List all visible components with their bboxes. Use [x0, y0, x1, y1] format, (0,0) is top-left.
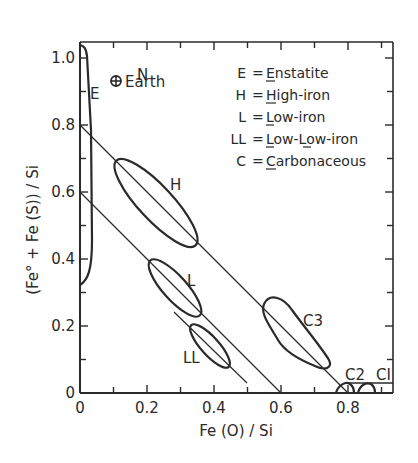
svg-text:Carbonaceous: Carbonaceous — [266, 153, 366, 169]
svg-text:L: L — [238, 109, 246, 125]
svg-text:Low-iron: Low-iron — [266, 109, 325, 125]
label-c1: CI — [376, 366, 391, 384]
svg-text:H: H — [235, 87, 246, 103]
svg-text:=: = — [252, 65, 264, 81]
x-axis-title: Fe (O) / Si — [199, 422, 273, 440]
svg-text:C: C — [236, 153, 246, 169]
label-n: N — [137, 66, 148, 84]
legend: E = Enstatite H = High-iron L = Low-iron… — [230, 65, 366, 169]
svg-text:=: = — [252, 87, 264, 103]
label-e: E — [90, 85, 99, 103]
legend-item-low-iron: L = Low-iron — [238, 109, 325, 125]
region-c1 — [358, 383, 375, 393]
label-ll: LL — [183, 349, 200, 367]
y-tick-label: 0.6 — [51, 183, 75, 201]
legend-item-enstatite: E = Enstatite — [237, 65, 328, 81]
label-l: L — [187, 272, 196, 290]
y-tick-label: 0.4 — [51, 250, 75, 268]
svg-text:High-iron: High-iron — [266, 87, 330, 103]
y-tick-label: 0.2 — [51, 317, 75, 335]
region-c3 — [263, 297, 330, 368]
y-axis-title: (Fe° + Fe (S)) / Si — [24, 165, 42, 295]
svg-text:=: = — [252, 131, 264, 147]
legend-item-low-low-iron: LL = Low-Low-iron — [230, 131, 358, 147]
region-enstatite — [80, 45, 92, 285]
label-c2: C2 — [345, 366, 365, 384]
y-tick-label: 0 — [65, 384, 75, 402]
svg-text:LL: LL — [230, 131, 246, 147]
y-tick-label: 1.0 — [51, 49, 75, 67]
svg-text:=: = — [252, 153, 264, 169]
x-tick-label: 0.4 — [202, 399, 226, 417]
x-tick-labels: 0 0.2 0.4 0.6 0.8 — [75, 399, 360, 417]
x-ticks — [114, 42, 382, 393]
y-tick-labels: 0 0.2 0.4 0.6 0.8 1.0 — [51, 49, 75, 402]
label-c3: C3 — [303, 312, 323, 330]
svg-text:=: = — [252, 109, 264, 125]
y-tick-label: 0.8 — [51, 116, 75, 134]
legend-item-carbonaceous: C = Carbonaceous — [236, 153, 366, 169]
svg-text:E: E — [237, 65, 246, 81]
y-ticks — [80, 58, 393, 360]
x-tick-label: 0.2 — [135, 399, 159, 417]
x-tick-label: 0.6 — [269, 399, 293, 417]
label-h: H — [170, 176, 181, 194]
x-tick-label: 0 — [75, 399, 85, 417]
legend-item-high-iron: H = High-iron — [235, 87, 330, 103]
lower-diagonal-line — [80, 192, 281, 393]
svg-text:Low-Low-iron: Low-Low-iron — [266, 131, 358, 147]
svg-text:Enstatite: Enstatite — [266, 65, 329, 81]
x-tick-label: 0.8 — [336, 399, 360, 417]
chart: 0 0.2 0.4 0.6 0.8 0 0.2 0.4 0.6 0.8 1.0 … — [0, 0, 418, 463]
